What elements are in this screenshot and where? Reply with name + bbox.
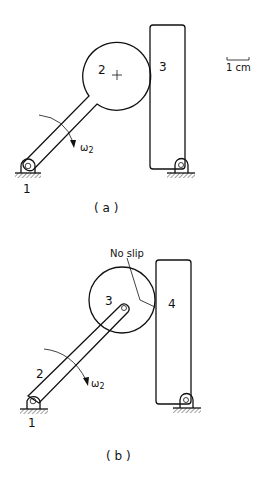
block-3-a [150,25,185,169]
figure-b: No slip 3 4 2 1 ω2 ( b ) [20,248,201,463]
block-4-b [156,260,191,404]
ground-pivot-right-a [167,159,195,178]
figure-a: 2 3 1 ω2 1 cm ( a ) [15,25,251,215]
scale-bar: 1 cm [226,57,251,73]
caption-a: ( a ) [94,201,118,215]
label-4-b: 4 [168,297,176,311]
label-3-b: 3 [105,294,113,308]
scale-bar-label: 1 cm [226,62,251,73]
omega-label-a: ω2 [80,142,93,155]
label-3-a: 3 [159,60,167,74]
omega-arrow-b [44,349,89,386]
label-2-a: 2 [98,63,106,77]
no-slip-leader [127,258,155,307]
disk-3-b [89,267,155,333]
link-2-b [28,304,129,403]
caption-b: ( b ) [106,449,131,463]
ground-pivot-right-b [173,394,201,414]
no-slip-annotation: No slip [110,248,144,259]
label-1-a: 1 [23,182,31,196]
label-2-b: 2 [36,367,44,381]
omega-label-b: ω2 [91,378,104,391]
mechanism-diagrams: 2 3 1 ω2 1 cm ( a ) [0,0,269,486]
ground-pivot-1-a [15,159,41,178]
label-1-b: 1 [28,416,36,430]
